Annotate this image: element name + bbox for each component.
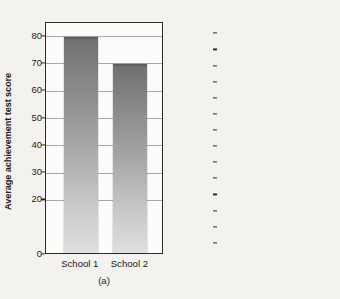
plot-area-a (45, 22, 163, 254)
y-axis-tick-mark (41, 199, 45, 200)
x-axis-tick-label: School 2 (111, 258, 148, 269)
y-axis-tick-mark (213, 145, 217, 146)
y-axis-title-a: Average achievement test score (3, 30, 13, 252)
y-axis-tick-mark (213, 33, 217, 34)
y-axis-tick-mark (213, 49, 217, 50)
panel-caption-a: (a) (98, 275, 110, 286)
y-axis-tick-mark (41, 62, 45, 63)
y-axis-tick-mark (213, 113, 217, 114)
y-axis-tick-labels-a: 020304050607080 (18, 22, 42, 254)
y-axis-tick-mark (213, 97, 217, 98)
y-axis-tick-mark (41, 172, 45, 173)
y-axis-tick-mark (41, 90, 45, 91)
bar (64, 37, 98, 254)
y-axis-tick-mark (213, 226, 217, 227)
y-axis-tick-mark (213, 178, 217, 179)
y-axis-tick-mark (213, 162, 217, 163)
y-axis-tick-mark (213, 242, 217, 243)
y-axis-tick-mark (41, 117, 45, 118)
bar-top-edge (64, 37, 98, 39)
x-axis-tick-label: School 1 (61, 258, 98, 269)
y-axis-tick-mark (41, 35, 45, 36)
chart-panel-a: Average achievement test score 020304050… (0, 0, 170, 299)
y-axis-tick-mark (213, 194, 217, 195)
y-axis-tick-mark (41, 144, 45, 145)
figure-container: Average achievement test score 020304050… (0, 0, 340, 299)
bar-top-edge (113, 64, 147, 66)
y-axis-tick-mark (213, 65, 217, 66)
y-axis-tick-mark (213, 129, 217, 130)
y-axis-tick-mark (213, 210, 217, 211)
bar (113, 64, 147, 254)
chart-panel-b: Average achievement test score 676869707… (170, 0, 340, 299)
y-axis-tick-mark (213, 81, 217, 82)
y-axis-tick-mark (41, 253, 45, 254)
